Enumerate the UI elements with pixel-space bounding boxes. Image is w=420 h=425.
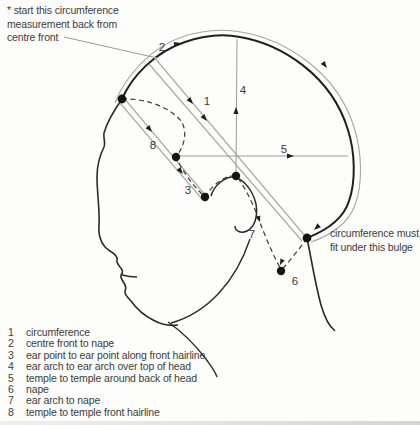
marker-6: 6 [292, 275, 298, 287]
bulge-dot [303, 234, 312, 243]
marker-3: 3 [185, 184, 191, 196]
mouth-line [122, 275, 137, 277]
face-profile-outline [97, 99, 178, 325]
legend-item-number: 4 [8, 361, 26, 372]
page-edge-shadow [0, 421, 420, 425]
legend-item-label: nape [26, 383, 49, 395]
legend-item: 8temple to temple front hairline [8, 407, 205, 418]
legend: 1circumference 2centre front to nape 3ea… [8, 327, 205, 418]
measure-line-8-3 [120, 98, 206, 199]
marker-5: 5 [281, 143, 287, 155]
centre-front-dot [118, 95, 127, 104]
legend-item-label: centre front to nape [26, 337, 114, 349]
legend-item-label: ear arch to nape [26, 394, 100, 406]
start-note-line3: centre front [7, 31, 119, 45]
jaw-outline [171, 239, 250, 323]
start-note: * start this circumference measurement b… [7, 4, 119, 45]
legend-item-label: temple to temple around back of head [26, 372, 197, 384]
marker-1: 1 [204, 95, 210, 107]
bulge-note: circumference must fit under this bulge [330, 227, 419, 254]
start-note-line1: * start this circumference [7, 4, 119, 18]
start-note-line2: measurement back from [7, 18, 119, 32]
measurement-dots [118, 95, 312, 276]
bulge-to-nape-dashed [281, 238, 307, 271]
marker-7: 7 [249, 228, 255, 240]
ear-arch-dot [232, 172, 240, 180]
legend-item-label: ear arch to ear arch over top of head [26, 360, 191, 372]
legend-item-label: ear point to ear point along front hairl… [26, 349, 205, 361]
ear-outline [211, 177, 257, 232]
legend-item-label: circumference [26, 326, 90, 338]
nape-dot [277, 267, 285, 275]
bulge-note-line2: fit under this bulge [330, 241, 419, 255]
temple-dot [172, 153, 180, 161]
ear-point-dot [201, 193, 209, 201]
marker-4: 4 [240, 84, 246, 96]
hairline-dashed-curve [122, 99, 236, 197]
legend-item-number: 8 [8, 407, 26, 418]
marker-2: 2 [159, 41, 165, 53]
diagram-canvas: * start this circumference measurement b… [0, 0, 420, 425]
legend-item-label: temple to temple front hairline [26, 406, 160, 418]
bulge-note-line1: circumference must [330, 227, 419, 241]
marker-8: 8 [150, 139, 156, 151]
